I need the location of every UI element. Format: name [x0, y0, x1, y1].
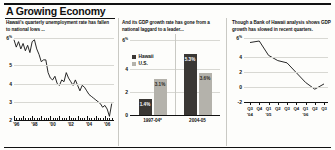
- chart-3-x-label: Q3: [284, 106, 290, 111]
- chart-2-bar-value: 5.3%: [185, 57, 195, 62]
- panel-2-deck: And its GDP growth rate has gone from a …: [122, 20, 222, 34]
- chart-1-y-label: 5: [1, 62, 12, 68]
- bottom-divider: [4, 147, 331, 148]
- infographic-root: A Growing Economy Hawaii's quarterly une…: [0, 0, 335, 150]
- chart-3-y-label: -2: [232, 99, 242, 105]
- chart-1-x-label: '02: [68, 122, 74, 127]
- chart-3-x-label: Q4: [293, 106, 299, 111]
- chart-2-bar-value: 1.4%: [140, 102, 150, 107]
- panel-3-deck: Though a Bank of Hawaii analysis shows G…: [232, 20, 332, 34]
- chart-3-x-label: Q2: [275, 106, 281, 111]
- chart-3-x-label: Q4: [256, 106, 262, 111]
- chart-3-x-year-label: '06: [303, 112, 309, 117]
- chart-1-x-label: '00: [50, 122, 56, 127]
- chart-3-y-label: 2: [232, 69, 242, 75]
- chart-3-y-label: 0: [232, 84, 242, 90]
- chart-3-series-path: [250, 41, 324, 89]
- chart-3-plot-area: [244, 38, 328, 124]
- chart-2-axis: [130, 115, 220, 116]
- page-title: A Growing Economy: [6, 5, 105, 17]
- chart-gdp-quarterly-line: -20246%Q3'04Q4Q1'05Q2Q3Q4Q1'06Q2Q3: [244, 38, 328, 124]
- chart-2-y-label: 0: [119, 112, 128, 118]
- panel-divider-2: [226, 18, 227, 146]
- chart-3-x-year-label: '04: [247, 112, 253, 117]
- chart-2-bar: 5.3%: [184, 54, 197, 115]
- chart-2-legend-label: Hawaii: [139, 54, 154, 59]
- chart-3-y-label: 6%: [232, 35, 242, 42]
- chart-2-y-label: 4: [119, 66, 128, 72]
- chart-1-y-label: 2: [1, 117, 12, 123]
- panel-1-deck: Hawaii's quarterly unemployment rate has…: [6, 20, 114, 34]
- chart-1-axis: [14, 120, 114, 121]
- chart-3-y-label: 4: [232, 54, 242, 60]
- title-underline: [5, 18, 115, 19]
- chart-2-y-label: 2: [119, 89, 128, 95]
- chart-1-y-label: 6%: [1, 35, 12, 42]
- chart-2-legend: HawaiiU.S.: [132, 54, 154, 68]
- chart-3-x-label: Q1: [266, 106, 272, 111]
- chart-2-legend-swatch: [132, 62, 136, 66]
- chart-2-x-label: 1997-04*: [143, 118, 162, 123]
- chart-2-bar: 3.6%: [199, 73, 212, 115]
- chart-2-x-label: 2004-05: [189, 118, 206, 123]
- chart-2-group-divider: [175, 34, 176, 115]
- chart-gdp-growth-bars: 0246%1.4%3.1%1997-04*5.3%3.6%2004-05Hawa…: [130, 40, 220, 125]
- chart-1-x-label: '06: [104, 122, 110, 127]
- chart-2-legend-swatch: [132, 55, 136, 59]
- chart-2-y-label: 6%: [119, 37, 128, 44]
- chart-1-x-label: '96: [13, 122, 19, 127]
- chart-3-x-label: Q1: [303, 106, 309, 111]
- chart-3-x-year-label: '05: [266, 112, 272, 117]
- chart-1-y-label: 3: [1, 99, 12, 105]
- chart-2-legend-item: U.S.: [132, 61, 154, 66]
- chart-3-x-label: Q3: [321, 106, 327, 111]
- chart-2-legend-item: Hawaii: [132, 54, 154, 59]
- chart-1-x-label: '04: [86, 122, 92, 127]
- chart-3-x-label: Q2: [312, 106, 318, 111]
- chart-1-x-label: '98: [31, 122, 37, 127]
- chart-1-series-path: [14, 40, 112, 117]
- chart-3-x-label: Q3: [247, 106, 253, 111]
- chart-2-bar-value: 3.1%: [155, 82, 165, 87]
- chart-2-bar: 1.4%: [139, 99, 152, 115]
- chart-1-y-label: 4: [1, 81, 12, 87]
- chart-2-legend-label: U.S.: [139, 61, 148, 66]
- chart-2-bar-value: 3.6%: [200, 76, 210, 81]
- chart-unemployment-line: 23456%'96'98'00'02'04'06: [14, 38, 114, 128]
- chart-2-bar: 3.1%: [154, 79, 167, 115]
